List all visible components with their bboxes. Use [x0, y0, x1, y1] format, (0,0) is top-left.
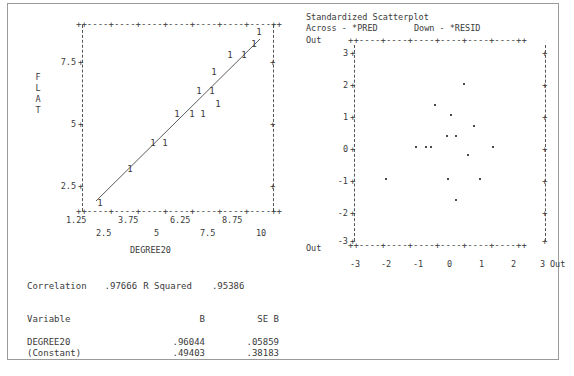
right-plot-data-point [463, 83, 465, 85]
right-plot-ytick-label: 3 [324, 49, 348, 58]
left-plot-data-point: 1 [127, 165, 132, 174]
right-plot-ytick-mark: + [350, 49, 355, 58]
left-plot-data-point: 1 [189, 110, 194, 119]
left-plot-xtick-label: 10 [256, 229, 266, 238]
col-header-b: B [131, 313, 205, 325]
left-plot-data-point: 1 [97, 199, 102, 208]
r-squared-label: R Squared [143, 281, 192, 291]
output-sheet-border: F L A T ++----+----+----+----+----+----+… [7, 3, 559, 360]
right-plot-xtick-label: 0 [447, 260, 452, 269]
correlation-value: .97666 [105, 281, 138, 291]
left-plot-xtick-label: 1.25 [66, 216, 86, 225]
right-plot-ytick-label: 1 [324, 113, 348, 122]
right-plot-out-label-right: Out [550, 260, 565, 269]
right-plot-across-label: Across - *PRED [306, 23, 378, 34]
right-plot-ytick-mark: + [350, 113, 355, 122]
r-squared-value: .95386 [212, 281, 245, 291]
left-plot-data-point: 1 [150, 139, 155, 148]
cell-variable: DEGREE20 [27, 337, 131, 348]
left-plot-xtick-label: 6.25 [170, 216, 190, 225]
cell-b: .49403 [131, 348, 205, 359]
right-plot-ytick-mark: + [350, 145, 355, 154]
spss-output-page: F L A T ++----+----+----+----+----+----+… [0, 0, 574, 376]
right-plot-xtick-label: -2 [381, 260, 391, 269]
left-plot-ytick-label: 7.5 [42, 58, 76, 67]
right-plot-bottom-tick-rail: ++----+----+----+----+----+----++ [348, 241, 552, 250]
right-plot-out-label-top: Out [306, 36, 321, 45]
coefficients-table-body: DEGREE20.96044.05859 (Constant).49403.38… [27, 337, 279, 359]
right-plot-data-point [492, 146, 494, 148]
right-plot-xtick-label: 2 [511, 260, 516, 269]
left-plot-data-point: 1 [196, 87, 201, 96]
right-plot-down-label: Down - *RESID [414, 23, 481, 34]
right-plot-data-point [434, 104, 436, 106]
right-plot-ytick-mark: + [542, 81, 547, 90]
right-plot-xtick-label: 1 [479, 260, 484, 269]
right-plot-top-tick-rail: ++----+----+----+----+----+----++ [348, 36, 552, 45]
right-plot-ytick-label: 0 [324, 145, 348, 154]
left-plot-data-point: 1 [241, 51, 246, 60]
right-plot-ytick-mark: + [350, 237, 355, 246]
left-plot-ytick-label: 5 [42, 120, 76, 129]
left-plot-data-point: 1 [256, 28, 261, 37]
left-plot-data-point: 1 [162, 139, 167, 148]
right-plot-ytick-mark: + [542, 145, 547, 154]
right-plot-ytick-mark: + [350, 209, 355, 218]
right-plot-data-point [455, 135, 457, 137]
y-axis-letter: T [32, 105, 44, 116]
right-plot-data-point [455, 199, 457, 201]
right-plot-ytick-mark: + [350, 177, 355, 186]
right-plot-ytick-label: -3 [324, 237, 348, 246]
right-plot-ytick-mark: + [542, 177, 547, 186]
right-plot-ytick-mark: + [542, 113, 547, 122]
right-plot-ytick-mark: + [350, 81, 355, 90]
cell-b: .96044 [131, 337, 205, 348]
col-header-se-b: SE B [205, 313, 279, 325]
right-plot-data-point [430, 146, 432, 148]
right-plot-data-point [446, 135, 448, 137]
table-row: (Constant).49403.38183 [27, 348, 279, 359]
right-plot-xtick-label: -1 [413, 260, 423, 269]
flat-vs-degree20-scatterplot: F L A T ++----+----+----+----+----+----+… [18, 12, 298, 262]
correlation-line: Correlation.97666R Squared.95386 [27, 280, 244, 292]
right-plot-data-point [425, 146, 427, 148]
right-plot-data-point [479, 178, 481, 180]
y-axis-letter: L [32, 83, 44, 94]
cell-variable: (Constant) [27, 348, 131, 359]
right-plot-data-point [447, 178, 449, 180]
y-axis-letter: A [32, 94, 44, 105]
right-plot-xtick-label: -3 [350, 260, 360, 269]
right-plot-header: Standardized Scatterplot Across - *PRED … [306, 12, 480, 34]
right-plot-ytick-label: -1 [324, 177, 348, 186]
left-plot-data-point: 1 [211, 68, 216, 77]
left-plot-ytick-label: 2.5 [42, 182, 76, 191]
right-plot-data-point [467, 154, 469, 156]
left-plot-xtick-label: 3.75 [118, 216, 138, 225]
right-plot-axis-legend: Across - *PRED Down - *RESID [306, 23, 480, 34]
right-plot-out-label-bottom: Out [306, 244, 321, 253]
right-plot-ytick-mark: + [542, 237, 547, 246]
right-plot-data-point [415, 146, 417, 148]
left-plot-y-axis-title: F L A T [32, 72, 44, 116]
right-plot-ytick-label: 2 [324, 81, 348, 90]
right-plot-ytick-mark: + [542, 49, 547, 58]
right-plot-data-point [450, 114, 452, 116]
cell-se-b: .05859 [205, 337, 279, 348]
right-plot-data-point [385, 178, 387, 180]
table-row: DEGREE20.96044.05859 [27, 337, 279, 348]
right-plot-title: Standardized Scatterplot [306, 12, 480, 23]
left-plot-data-point: 1 [251, 40, 256, 49]
left-plot-xtick-label: 2.5 [96, 229, 111, 238]
cell-se-b: .38183 [205, 348, 279, 359]
left-plot-frame: ++----+----+----+----+----+----+----++ +… [82, 25, 274, 211]
left-plot-xtick-label: 5 [154, 229, 159, 238]
correlation-label: Correlation [27, 281, 87, 291]
left-plot-data-point: 1 [215, 100, 220, 109]
right-plot-xtick-label: 3 [540, 260, 545, 269]
left-plot-data-point: 1 [227, 51, 232, 60]
right-plot-data-point [473, 125, 475, 127]
right-plot-frame: ++----+----+----+----+----+----++ ++----… [354, 45, 546, 241]
right-plot-ytick-label: -2 [324, 209, 348, 218]
col-header-variable: Variable [27, 313, 131, 325]
left-plot-data-point: 1 [174, 110, 179, 119]
